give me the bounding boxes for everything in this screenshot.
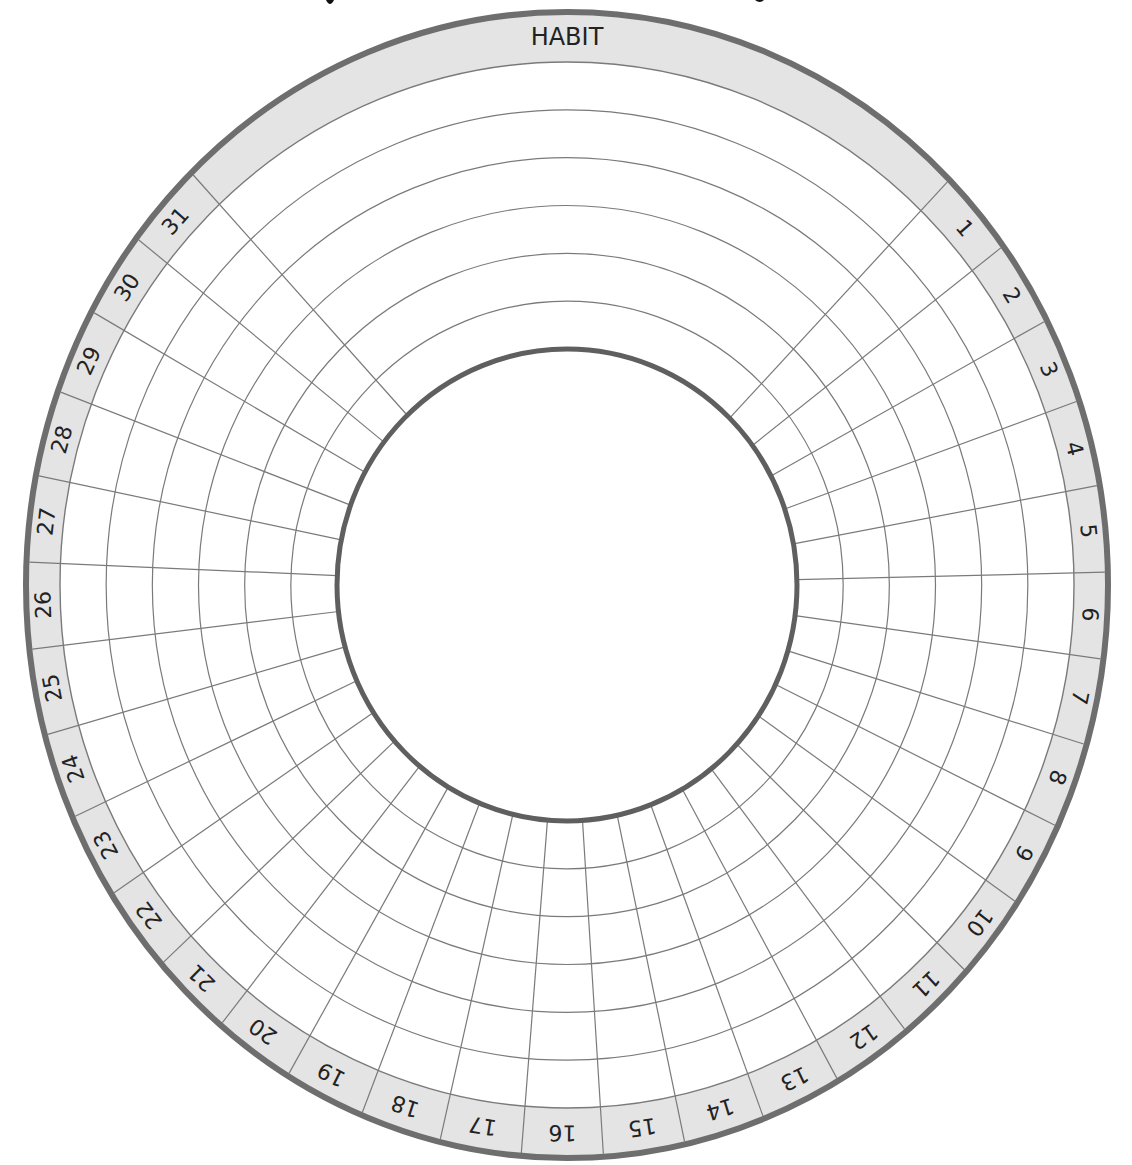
center-circle	[337, 349, 797, 821]
habit-cell[interactable]	[884, 519, 935, 578]
habit-cell[interactable]	[153, 503, 206, 570]
habit-cell[interactable]	[540, 868, 589, 917]
habit-cell[interactable]	[106, 566, 155, 638]
habit-cell[interactable]	[841, 578, 889, 628]
habit-cell[interactable]	[199, 512, 251, 571]
day-label: 15	[626, 1113, 657, 1142]
habit-cell[interactable]	[978, 574, 1028, 646]
habit-cell[interactable]	[930, 511, 982, 577]
habit-cell[interactable]	[532, 963, 595, 1012]
habit-cell[interactable]	[199, 570, 247, 628]
day-label: 17	[467, 1111, 499, 1140]
day-label: 26	[30, 590, 56, 619]
habit-cell[interactable]	[1021, 494, 1074, 574]
habit-cell[interactable]	[932, 575, 981, 640]
habit-cell[interactable]	[245, 572, 293, 623]
habit-cell[interactable]	[887, 576, 936, 634]
habit-cell[interactable]	[1024, 573, 1074, 653]
habit-cell[interactable]	[592, 955, 658, 1011]
habit-cell[interactable]	[152, 568, 201, 633]
day-label: 27	[32, 506, 60, 537]
day-label: 25	[37, 672, 67, 704]
habit-cell[interactable]	[544, 820, 586, 869]
habit-cell[interactable]	[107, 494, 160, 568]
habit-cell[interactable]	[60, 485, 114, 566]
habit-cell[interactable]	[536, 915, 592, 964]
day-label: 16	[548, 1120, 576, 1145]
habit-cell[interactable]	[291, 574, 339, 617]
habit-cell[interactable]	[528, 1011, 598, 1060]
circular-habit-tracker: 1234567891011121314151617181920212223242…	[0, 0, 1132, 1165]
habit-cell[interactable]	[595, 1002, 668, 1059]
day-label: 6	[1077, 607, 1103, 622]
habit-cell[interactable]	[469, 954, 535, 1011]
habit-cell[interactable]	[795, 579, 843, 622]
cropped-title-fragment	[326, 0, 764, 4]
habit-header-label: HABIT	[531, 23, 604, 51]
habit-cell[interactable]	[524, 1058, 601, 1108]
day-label: 5	[1075, 523, 1101, 539]
habit-cell[interactable]	[245, 522, 296, 574]
habit-cell[interactable]	[975, 502, 1027, 575]
habit-cell[interactable]	[589, 909, 648, 964]
habit-cell[interactable]	[60, 564, 109, 644]
habit-cell[interactable]	[839, 527, 889, 578]
